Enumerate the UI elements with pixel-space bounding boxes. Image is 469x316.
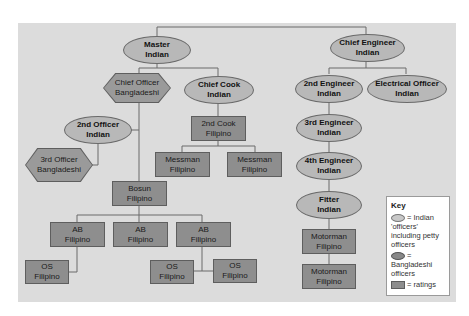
node-nationality: Indian bbox=[317, 89, 341, 99]
node-messman-1: Messman Filipino bbox=[155, 152, 210, 177]
node-fourth-engineer: 4th Engineer Indian bbox=[296, 152, 362, 180]
node-nationality: Indian bbox=[356, 48, 380, 58]
node-electrical-officer: Electrical Officer Indian bbox=[367, 75, 447, 103]
node-os-2: OS Filipino bbox=[150, 260, 194, 284]
node-role: AB bbox=[198, 225, 209, 235]
node-role: Motorman bbox=[311, 232, 347, 242]
node-role: 2nd Cook bbox=[201, 119, 235, 129]
node-nationality: Indian bbox=[317, 128, 341, 138]
node-nationality: Indian bbox=[86, 130, 110, 140]
node-ab-1: AB Filipino bbox=[50, 222, 105, 247]
node-role: Messman bbox=[237, 155, 272, 165]
node-nationality: Filipino bbox=[34, 272, 59, 282]
node-role: 4th Engineer bbox=[305, 156, 353, 166]
node-role: Messman bbox=[165, 155, 200, 165]
node-nationality: Filipino bbox=[127, 194, 152, 204]
node-nationality: Filipino bbox=[316, 277, 341, 287]
node-chief-officer: Chief Officer Bangladeshi bbox=[104, 74, 170, 102]
node-nationality: Filipino bbox=[222, 271, 247, 281]
node-nationality: Filipino bbox=[170, 165, 195, 175]
node-role: OS bbox=[229, 261, 241, 271]
node-ab-2: AB Filipino bbox=[113, 222, 168, 247]
node-nationality: Filipino bbox=[242, 165, 267, 175]
node-role: OS bbox=[41, 262, 53, 272]
node-nationality: Filipino bbox=[191, 235, 216, 245]
node-role: Fitter bbox=[319, 195, 339, 205]
node-motorman-2: Motorman Filipino bbox=[302, 264, 356, 289]
node-os-3: OS Filipino bbox=[213, 259, 257, 283]
legend-label: = ratings bbox=[407, 280, 436, 289]
legend-item-bangladeshi: = Bangladeshi officers bbox=[391, 251, 445, 278]
node-nationality: Filipino bbox=[159, 272, 184, 282]
node-second-engineer: 2nd Engineer Indian bbox=[295, 75, 363, 103]
node-role: Chief Cook bbox=[198, 80, 240, 90]
node-role: 3rd Engineer bbox=[305, 118, 354, 128]
node-role: Chief Engineer bbox=[339, 38, 395, 48]
node-bosun: Bosun Filipino bbox=[112, 181, 167, 206]
light-oval-icon bbox=[391, 214, 405, 222]
node-role: OS bbox=[166, 262, 178, 272]
node-role: Chief Officer bbox=[115, 78, 159, 88]
node-ab-3: AB Filipino bbox=[176, 222, 231, 247]
node-nationality: Filipino bbox=[65, 235, 90, 245]
node-nationality: Indian bbox=[317, 205, 341, 215]
legend-key: Key = Indian 'officers' including petty … bbox=[386, 196, 450, 296]
node-os-1: OS Filipino bbox=[25, 260, 69, 284]
legend-item-indian: = Indian 'officers' including petty offi… bbox=[391, 213, 445, 249]
dark-oval-icon bbox=[391, 252, 405, 260]
node-nationality: Filipino bbox=[206, 129, 231, 139]
node-role: Motorman bbox=[311, 267, 347, 277]
node-messman-2: Messman Filipino bbox=[227, 152, 282, 177]
node-nationality: Bangladeshi bbox=[37, 165, 81, 175]
node-nationality: Indian bbox=[395, 89, 419, 99]
node-role: 3rd Officer bbox=[40, 155, 77, 165]
node-nationality: Indian bbox=[145, 50, 169, 60]
node-master: Master Indian bbox=[123, 36, 191, 64]
node-role: Bosun bbox=[128, 184, 151, 194]
node-role: 2nd Engineer bbox=[304, 79, 355, 89]
node-third-engineer: 3rd Engineer Indian bbox=[296, 114, 362, 142]
node-second-officer: 2nd Officer Indian bbox=[64, 116, 132, 144]
node-nationality: Indian bbox=[207, 90, 231, 100]
legend-item-ratings: = ratings bbox=[391, 280, 445, 289]
node-role: AB bbox=[135, 225, 146, 235]
node-nationality: Indian bbox=[317, 166, 341, 176]
node-motorman-1: Motorman Filipino bbox=[302, 229, 356, 254]
node-role: 2nd Officer bbox=[77, 120, 119, 130]
legend-title: Key bbox=[391, 201, 445, 210]
node-chief-engineer: Chief Engineer Indian bbox=[330, 34, 405, 62]
node-role: AB bbox=[72, 225, 83, 235]
node-nationality: Bangladeshi bbox=[115, 88, 159, 98]
node-role: Master bbox=[144, 40, 170, 50]
node-role: Electrical Officer bbox=[375, 79, 439, 89]
node-nationality: Filipino bbox=[128, 235, 153, 245]
node-second-cook: 2nd Cook Filipino bbox=[191, 116, 246, 141]
node-third-officer: 3rd Officer Bangladeshi bbox=[26, 149, 92, 181]
rect-icon bbox=[391, 281, 405, 289]
node-chief-cook: Chief Cook Indian bbox=[184, 76, 254, 104]
node-fitter: Fitter Indian bbox=[296, 191, 362, 219]
node-nationality: Filipino bbox=[316, 242, 341, 252]
